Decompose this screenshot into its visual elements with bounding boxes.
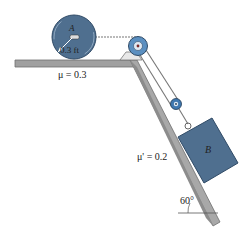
small-pulley — [171, 99, 182, 110]
horizontal-surface — [15, 60, 137, 67]
horizontal-friction-label: μ = 0.3 — [58, 69, 87, 80]
top-pulley — [129, 37, 148, 56]
radius-label: 0.3 ft — [60, 45, 79, 55]
cylinder-label: A — [68, 23, 75, 33]
cylinder-a: A 0.3 ft — [52, 15, 96, 59]
block-label: B — [205, 144, 211, 155]
incline-friction-label: μ' = 0.2 — [137, 151, 167, 162]
incline-angle-label: 60° — [180, 195, 194, 206]
pulley-system-diagram: A 0.3 ft B μ = 0.3 μ' = 0.2 60° — [0, 0, 242, 237]
